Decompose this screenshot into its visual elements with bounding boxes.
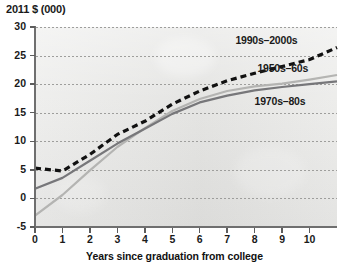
series-label: 1970s–80s xyxy=(255,95,306,107)
y-axis-label: 30 xyxy=(0,20,26,32)
x-axis-label: 9 xyxy=(272,233,292,245)
x-axis-label: 4 xyxy=(135,233,155,245)
plot-area xyxy=(35,27,337,227)
y-axis-tick xyxy=(30,26,35,28)
y-axis-label: 10 xyxy=(0,134,26,146)
x-axis-label: 5 xyxy=(162,233,182,245)
y-axis-tick xyxy=(30,83,35,85)
x-axis-label: 2 xyxy=(80,233,100,245)
y-axis-label: 15 xyxy=(0,106,26,118)
y-axis-label: 0 xyxy=(0,191,26,203)
x-axis-label: 3 xyxy=(107,233,127,245)
x-axis-label: 6 xyxy=(190,233,210,245)
series-label: 1990s–2000s xyxy=(235,34,297,46)
y-axis-tick xyxy=(30,169,35,171)
y-axis-tick xyxy=(30,141,35,143)
y-axis-label: 20 xyxy=(0,77,26,89)
x-axis-title: Years since graduation from college xyxy=(0,250,349,262)
y-axis-tick xyxy=(30,112,35,114)
x-axis-label: 1 xyxy=(53,233,73,245)
chart-figure: 2011 $ (000) 302520151050-5 012345678910… xyxy=(0,0,349,269)
y-axis-label: 25 xyxy=(0,49,26,61)
y-axis-label: -5 xyxy=(0,220,26,232)
x-axis-label: 0 xyxy=(25,233,45,245)
series-label: 1950s–60s xyxy=(257,62,308,74)
x-axis-line xyxy=(34,226,337,228)
y-axis-label: 5 xyxy=(0,163,26,175)
series-lines xyxy=(35,27,337,227)
x-axis-label: 10 xyxy=(300,233,320,245)
y-axis-title: 2011 $ (000) xyxy=(6,3,65,15)
x-axis-label: 8 xyxy=(245,233,265,245)
y-axis-tick xyxy=(30,55,35,57)
x-axis-label: 7 xyxy=(217,233,237,245)
y-axis-tick xyxy=(30,198,35,200)
